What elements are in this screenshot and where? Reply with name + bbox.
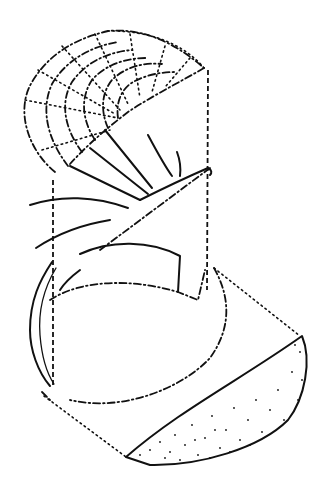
- grid-dome: [24, 31, 204, 172]
- stippled-lobe: [126, 336, 307, 465]
- construction-lines: [44, 70, 300, 457]
- lower-ring: [42, 268, 226, 403]
- shell-diagram: [0, 0, 332, 499]
- stipple-dots: [139, 344, 303, 461]
